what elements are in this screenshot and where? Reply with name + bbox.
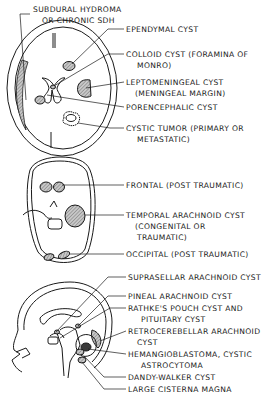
label-dandy-walker-cyst: DANDY-WALKER CYST (128, 372, 215, 383)
label-occipital: OCCIPITAL (POST TRAUMATIC) (126, 249, 249, 260)
label-temporal-line3: TRAUMATIC) (137, 232, 187, 243)
label-cystic-tumor: CYSTIC TUMOR (PRIMARY OR (126, 123, 244, 134)
label-rathkes-pouch-cyst: RATHKE'S POUCH CYST AND (128, 303, 243, 314)
label-porencephalic-cyst: PORENCEPHALIC CYST (126, 102, 218, 113)
label-frontal: FRONTAL (POST TRAUMATIC) (126, 180, 244, 191)
label-suprasellar-arachnoid-cyst: SUPRASELLAR ARACHNOID CYST (128, 272, 261, 283)
label-pineal-arachnoid-cyst: PINEAL ARACHNOID CYST (128, 291, 232, 302)
label-colloid-cyst: COLLOID CYST (FORAMINA OF (126, 49, 248, 60)
label-retrocerebellar-arachnoid-cyst: RETROCEREBELLAR ARACHNOID (128, 326, 260, 337)
diagram-stage: SUBDURAL HYDROMA OR CHRONIC SDH EPENDYMA… (0, 0, 270, 397)
label-ependymal-cyst: EPENDYMAL CYST (126, 24, 198, 35)
label-hemangioblastoma: HEMANGIOBLASTOMA, CYSTIC (128, 349, 252, 360)
label-colloid-cyst-line2: MONRO) (137, 60, 172, 71)
label-rathkes-pouch-line2: PITUITARY CYST (141, 314, 206, 325)
label-leptomeningeal-cyst-line2: (MENINGEAL MARGIN) (135, 88, 226, 99)
label-cystic-tumor-line2: METASTATIC) (137, 134, 190, 145)
axial-brain-drawing (7, 14, 124, 156)
label-hemangioblastoma-line2: ASTROCYTOMA (141, 360, 203, 371)
label-large-cisterna-magna: LARGE CISTERNA MAGNA (128, 384, 232, 395)
label-temporal-arachnoid-cyst: TEMPORAL ARACHNOID CYST (126, 210, 245, 221)
sagittal-brain-drawing (12, 277, 126, 389)
label-retrocerebellar-line2: CYST (137, 337, 158, 348)
label-temporal-line2: (CONGENITAL OR (135, 221, 206, 232)
label-subdural-hydroma: SUBDURAL HYDROMA (33, 4, 122, 15)
label-leptomeningeal-cyst: LEPTOMENINGEAL CYST (126, 77, 224, 88)
label-subdural-hydroma-line2: OR CHRONIC SDH (42, 15, 115, 26)
skull-base-drawing (23, 157, 124, 263)
